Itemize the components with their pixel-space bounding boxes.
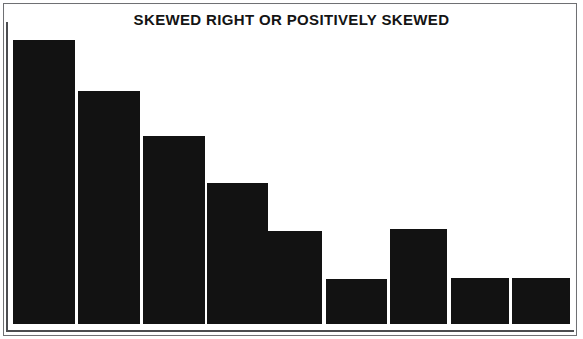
- chart-title: SKEWED RIGHT OR POSITIVELY SKEWED: [0, 11, 583, 29]
- figure-frame: [3, 3, 577, 336]
- chart-screenshot: SKEWED RIGHT OR POSITIVELY SKEWED: [0, 0, 583, 339]
